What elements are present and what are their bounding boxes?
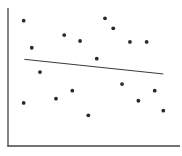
data-point (153, 89, 157, 93)
data-point (62, 33, 66, 37)
data-point (38, 70, 42, 74)
data-point (128, 40, 132, 44)
data-point (111, 26, 115, 30)
data-point (161, 109, 165, 113)
data-point (22, 101, 26, 105)
data-point (145, 40, 149, 44)
data-point (54, 97, 58, 101)
chart-canvas (0, 0, 182, 156)
scatter-chart (0, 0, 182, 156)
data-point (136, 99, 140, 103)
data-point (70, 89, 74, 93)
data-point (78, 39, 82, 43)
chart-axes (7, 8, 180, 147)
data-point (30, 46, 34, 50)
data-point (22, 19, 26, 23)
trend-line (24, 59, 163, 74)
data-point (120, 82, 124, 86)
data-point (95, 57, 99, 61)
data-point (86, 113, 90, 117)
data-point (103, 16, 107, 20)
